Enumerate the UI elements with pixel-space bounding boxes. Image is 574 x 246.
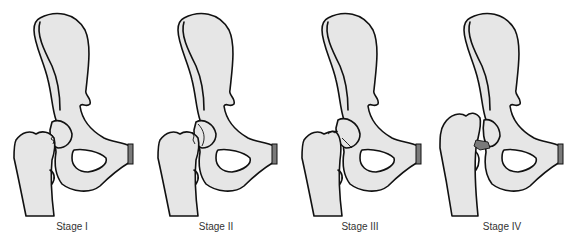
hip-joint-illustration-stage-1 xyxy=(0,0,144,246)
hip-joint-illustration-stage-2 xyxy=(144,0,288,246)
stage-4-panel: Stage IV xyxy=(430,0,574,246)
stage-1-panel: Stage I xyxy=(0,0,144,246)
hip-joint-illustration-stage-4 xyxy=(430,0,574,246)
hip-joint-illustration-stage-3 xyxy=(288,0,432,246)
stage-3-panel: Stage III xyxy=(288,0,432,246)
symphysis-cap xyxy=(272,144,277,164)
symphysis-cap xyxy=(416,144,421,164)
stage-2-panel: Stage II xyxy=(144,0,288,246)
stage-caption: Stage III xyxy=(288,221,432,232)
stage-caption: Stage IV xyxy=(430,221,574,232)
stage-caption: Stage II xyxy=(144,221,288,232)
symphysis-cap xyxy=(128,144,133,164)
stage-caption: Stage I xyxy=(0,221,144,232)
symphysis-cap xyxy=(558,144,563,164)
